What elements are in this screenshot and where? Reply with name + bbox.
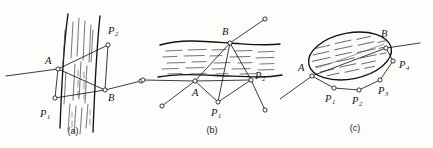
label-p1-sub: 1: [218, 112, 221, 119]
label-p3-sub: 3: [384, 90, 389, 97]
panel-b-obstacle-band: [158, 41, 282, 77]
node-a: [193, 79, 197, 83]
label-a: A: [191, 87, 199, 98]
node-a: [310, 74, 314, 78]
label-p2: P: [107, 25, 115, 36]
caption-a: (a): [68, 126, 79, 136]
panel-b-labels: A B P 1 P 2: [191, 26, 266, 119]
label-p2-sub: 2: [359, 100, 363, 107]
node-end-lower-right: [263, 108, 267, 112]
label-p1: P: [210, 107, 218, 118]
node-p1: [216, 100, 220, 104]
label-a: A: [297, 62, 305, 73]
label-b: B: [108, 92, 115, 103]
node-end-left: [141, 78, 145, 82]
node-end-upper-right: [263, 17, 267, 21]
label-p1: P: [324, 93, 332, 104]
label-p4-sub: 4: [406, 64, 410, 71]
node-p2: [357, 88, 361, 92]
label-p1-sub: 1: [47, 113, 50, 120]
label-b: B: [222, 26, 229, 37]
panel-a-labels: A B P 1 P 2: [39, 25, 119, 120]
node-b: [103, 88, 107, 92]
panel-a-obstacle-strip: [60, 14, 100, 134]
label-p2-sub: 2: [115, 30, 119, 37]
label-p2-sub: 2: [262, 75, 266, 82]
node-p2: [249, 78, 253, 82]
caption-c: (c): [350, 123, 361, 133]
caption-b: (b): [207, 125, 218, 135]
panel-b-nodes: [141, 17, 267, 112]
node-end-lower-left: [160, 104, 164, 108]
node-b: [384, 46, 388, 50]
label-p1-sub: 1: [332, 98, 335, 105]
node-p2: [106, 43, 110, 47]
label-p2: P: [254, 70, 262, 81]
label-b: B: [381, 28, 388, 39]
figure-root: A B P 1 P 2 (a): [0, 0, 433, 148]
panel-b: A B P 1 P 2 (b): [140, 0, 290, 148]
node-a: [56, 67, 60, 71]
panel-c: A B P 1 P 2 P 3 P 4 (c): [280, 0, 433, 148]
panel-a: A B P 1 P 2 (a): [0, 0, 145, 148]
node-p1: [53, 96, 57, 100]
label-p4: P: [398, 59, 406, 70]
node-p1: [332, 86, 336, 90]
node-p3: [378, 78, 382, 82]
label-a: A: [44, 55, 52, 66]
label-p3: P: [377, 85, 385, 96]
node-p4: [391, 59, 395, 63]
label-p2: P: [351, 95, 359, 106]
panel-b-paths: [143, 19, 265, 110]
label-p1: P: [39, 108, 47, 119]
node-b: [228, 41, 232, 45]
